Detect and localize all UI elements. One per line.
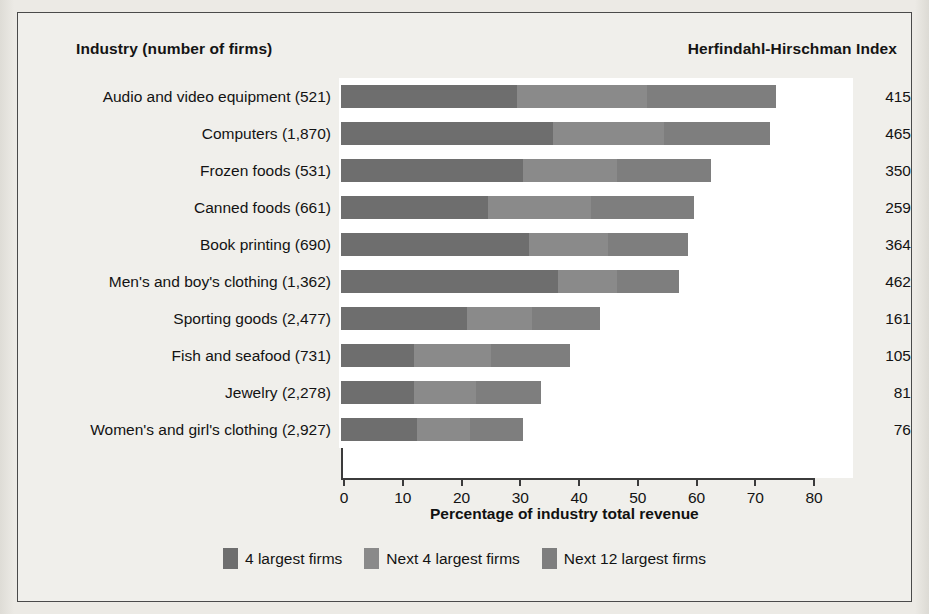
bar-segment-2: [553, 122, 665, 145]
chart-row: Men's and boy's clothing (1,362)462: [17, 263, 912, 300]
bar-segment-3: [470, 418, 523, 441]
stacked-bar[interactable]: [341, 233, 688, 256]
bar-segment-3: [647, 85, 776, 108]
bar-track: [339, 300, 851, 337]
legend-label: Next 12 largest firms: [564, 550, 706, 568]
hhi-column-heading: Herfindahl-Hirschman Index: [688, 40, 897, 58]
x-axis-tick-label: 0: [340, 489, 349, 507]
hhi-value: 462: [851, 273, 911, 291]
category-label: Sporting goods (2,477): [17, 310, 339, 328]
hhi-value: 81: [851, 384, 911, 402]
legend-item[interactable]: Next 4 largest firms: [364, 548, 520, 569]
bar-segment-2: [517, 85, 646, 108]
bar-segment-1: [341, 122, 553, 145]
bar-track: [339, 226, 851, 263]
bar-segment-2: [417, 418, 470, 441]
hhi-value: 350: [851, 162, 911, 180]
legend-label: 4 largest firms: [245, 550, 342, 568]
category-label: Frozen foods (531): [17, 162, 339, 180]
bar-segment-3: [476, 381, 541, 404]
bar-rows: Audio and video equipment (521)415Comput…: [17, 78, 912, 448]
bar-segment-2: [558, 270, 617, 293]
bar-segment-3: [532, 307, 600, 330]
industry-column-heading: Industry (number of firms): [76, 40, 272, 58]
x-axis-tick: [754, 478, 756, 486]
bar-segment-3: [491, 344, 570, 367]
category-label: Computers (1,870): [17, 125, 339, 143]
stacked-bar[interactable]: [341, 196, 694, 219]
x-axis-tick: [519, 478, 521, 486]
stacked-bar[interactable]: [341, 85, 776, 108]
bar-track: [339, 115, 851, 152]
legend-swatch-icon: [223, 548, 238, 569]
x-axis-tick: [637, 478, 639, 486]
bar-segment-2: [414, 344, 490, 367]
bar-track: [339, 374, 851, 411]
bar-segment-2: [523, 159, 617, 182]
bar-segment-3: [608, 233, 687, 256]
x-axis-tick: [813, 478, 815, 486]
bar-track: [339, 263, 851, 300]
hhi-value: 364: [851, 236, 911, 254]
category-label: Book printing (690): [17, 236, 339, 254]
x-axis-tick: [343, 478, 345, 486]
chart-row: Fish and seafood (731)105: [17, 337, 912, 374]
x-axis-label: Percentage of industry total revenue: [430, 505, 699, 523]
bar-segment-1: [341, 159, 523, 182]
hhi-value: 161: [851, 310, 911, 328]
category-label: Jewelry (2,278): [17, 384, 339, 402]
bar-segment-2: [467, 307, 532, 330]
category-label: Canned foods (661): [17, 199, 339, 217]
legend-item[interactable]: 4 largest firms: [223, 548, 342, 569]
x-axis-tick: [696, 478, 698, 486]
stacked-bar[interactable]: [341, 122, 770, 145]
category-label: Men's and boy's clothing (1,362): [17, 273, 339, 291]
bar-segment-1: [341, 85, 517, 108]
x-axis-tick-label: 10: [394, 489, 411, 507]
bar-segment-2: [414, 381, 476, 404]
chart-row: Computers (1,870)465: [17, 115, 912, 152]
stacked-bar[interactable]: [341, 344, 570, 367]
bar-track: [339, 78, 851, 115]
bar-segment-1: [341, 344, 414, 367]
hhi-value: 105: [851, 347, 911, 365]
stacked-bar[interactable]: [341, 307, 600, 330]
chart-row: Frozen foods (531)350: [17, 152, 912, 189]
hhi-value: 76: [851, 421, 911, 439]
chart-body: Audio and video equipment (521)415Comput…: [17, 70, 912, 465]
legend-label: Next 4 largest firms: [386, 550, 520, 568]
bar-segment-2: [529, 233, 608, 256]
legend-swatch-icon: [364, 548, 379, 569]
stacked-bar[interactable]: [341, 381, 541, 404]
stacked-bar[interactable]: [341, 159, 711, 182]
stacked-bar[interactable]: [341, 270, 679, 293]
bar-segment-1: [341, 233, 529, 256]
chart-row: Jewelry (2,278)81: [17, 374, 912, 411]
chart-row: Canned foods (661)259: [17, 189, 912, 226]
bar-segment-3: [617, 159, 711, 182]
category-label: Fish and seafood (731): [17, 347, 339, 365]
category-label: Women's and girl's clothing (2,927): [17, 421, 339, 439]
chart-row: Sporting goods (2,477)161: [17, 300, 912, 337]
figure-container: Industry (number of firms) Herfindahl-Hi…: [0, 0, 929, 614]
bar-segment-1: [341, 270, 558, 293]
chart-row: Book printing (690)364: [17, 226, 912, 263]
bar-track: [339, 152, 851, 189]
chart-row: Women's and girl's clothing (2,927)76: [17, 411, 912, 448]
x-axis-tick: [578, 478, 580, 486]
legend-item[interactable]: Next 12 largest firms: [542, 548, 706, 569]
bar-segment-1: [341, 381, 414, 404]
bar-segment-3: [664, 122, 770, 145]
bar-segment-1: [341, 196, 488, 219]
chart-row: Audio and video equipment (521)415: [17, 78, 912, 115]
legend-swatch-icon: [542, 548, 557, 569]
bar-track: [339, 189, 851, 226]
bar-segment-3: [617, 270, 679, 293]
category-label: Audio and video equipment (521): [17, 88, 339, 106]
hhi-value: 415: [851, 88, 911, 106]
bar-segment-2: [488, 196, 591, 219]
hhi-value: 259: [851, 199, 911, 217]
chart-legend: 4 largest firmsNext 4 largest firmsNext …: [0, 548, 929, 569]
stacked-bar[interactable]: [341, 418, 523, 441]
bar-segment-1: [341, 307, 467, 330]
